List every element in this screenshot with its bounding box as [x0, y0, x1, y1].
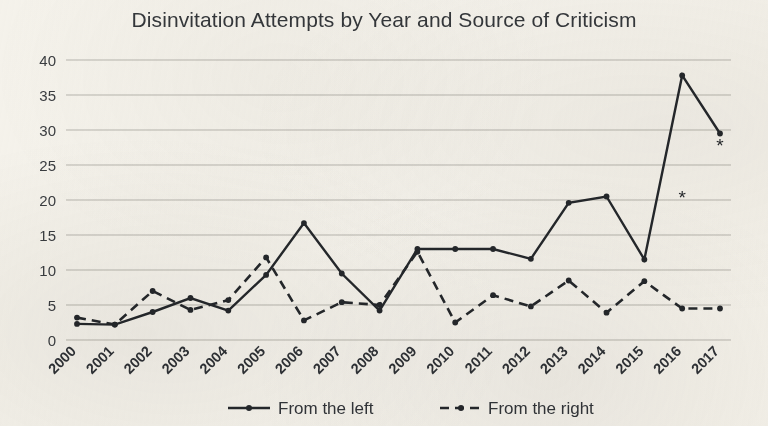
data-point-1-2014 [604, 310, 610, 316]
data-point-1-2002 [150, 288, 156, 294]
data-point-1-2006 [301, 318, 307, 324]
asterisk-2016: * [678, 187, 686, 208]
y-tick-5: 5 [48, 297, 56, 314]
asterisk-2017: * [716, 135, 724, 156]
x-axis-tick-labels: 2000200120022003200420052006200720082009… [45, 343, 722, 377]
data-point-0-2010 [452, 246, 458, 252]
legend-label-0: From the left [278, 399, 374, 418]
data-point-0-2003 [188, 295, 194, 301]
y-tick-30: 30 [39, 122, 56, 139]
series-line-1 [77, 252, 720, 325]
data-point-1-2015 [641, 278, 647, 284]
x-tick-2006: 2006 [272, 343, 306, 377]
data-point-1-2004 [225, 297, 231, 303]
data-point-0-2006 [301, 220, 307, 226]
x-tick-2008: 2008 [348, 343, 382, 377]
data-point-0-2000 [74, 321, 80, 327]
x-tick-2017: 2017 [688, 343, 722, 377]
data-point-0-2013 [566, 200, 572, 206]
annotations: ** [678, 135, 724, 207]
data-point-1-2009 [415, 249, 421, 255]
y-tick-25: 25 [39, 157, 56, 174]
legend-marker-0 [246, 405, 252, 411]
y-tick-20: 20 [39, 192, 56, 209]
x-tick-2015: 2015 [612, 343, 646, 377]
x-tick-2010: 2010 [423, 343, 457, 377]
y-tick-15: 15 [39, 227, 56, 244]
x-tick-2003: 2003 [158, 343, 192, 377]
x-tick-2007: 2007 [310, 343, 344, 377]
data-point-1-2016 [679, 306, 685, 312]
x-tick-2002: 2002 [121, 343, 155, 377]
data-point-1-2008 [377, 302, 383, 308]
data-point-1-2017 [717, 306, 723, 312]
data-point-1-2005 [263, 255, 269, 261]
data-point-1-2003 [188, 307, 194, 313]
data-point-1-2010 [452, 320, 458, 326]
y-tick-10: 10 [39, 262, 56, 279]
data-point-1-2013 [566, 278, 572, 284]
data-point-1-2000 [74, 315, 80, 321]
data-point-1-2001 [112, 322, 118, 328]
x-tick-2011: 2011 [462, 343, 496, 377]
data-point-0-2005 [263, 272, 269, 278]
data-point-1-2011 [490, 292, 496, 298]
data-point-0-2016 [679, 73, 685, 79]
data-point-0-2008 [377, 308, 383, 314]
y-tick-35: 35 [39, 87, 56, 104]
data-point-0-2012 [528, 256, 534, 262]
legend-marker-1 [458, 405, 464, 411]
page-title: Disinvitation Attempts by Year and Sourc… [0, 8, 768, 32]
gridlines [66, 60, 731, 340]
data-point-0-2004 [225, 308, 231, 314]
y-tick-40: 40 [39, 52, 56, 69]
data-point-1-2012 [528, 304, 534, 310]
data-point-0-2011 [490, 246, 496, 252]
x-tick-2004: 2004 [196, 343, 230, 377]
line-chart: 0510152025303540 20002001200220032004200… [0, 0, 768, 426]
legend-label-1: From the right [488, 399, 594, 418]
data-point-0-2014 [604, 194, 610, 200]
y-tick-0: 0 [48, 332, 56, 349]
y-axis-tick-labels: 0510152025303540 [39, 52, 56, 349]
data-point-0-2002 [150, 309, 156, 315]
x-tick-2001: 2001 [83, 343, 117, 377]
x-tick-2013: 2013 [537, 343, 571, 377]
x-tick-2014: 2014 [575, 343, 609, 377]
data-point-1-2007 [339, 299, 345, 305]
x-tick-2016: 2016 [650, 343, 684, 377]
data-point-0-2007 [339, 271, 345, 277]
x-tick-2012: 2012 [499, 343, 533, 377]
x-tick-2009: 2009 [385, 343, 419, 377]
data-point-0-2015 [641, 257, 647, 263]
chart-legend: From the leftFrom the right [228, 399, 594, 418]
x-tick-2005: 2005 [234, 343, 268, 377]
